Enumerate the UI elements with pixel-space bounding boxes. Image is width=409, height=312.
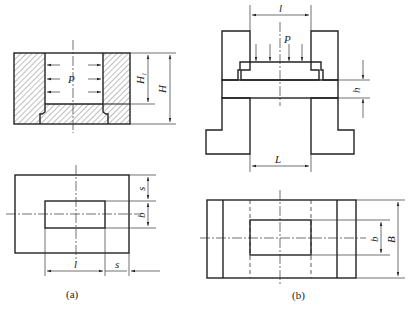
dimension-b-b-label: b xyxy=(368,236,380,242)
dimension-H1-label: H1 xyxy=(134,73,148,85)
dimension-s-bottom-label: s xyxy=(115,258,119,270)
dimension-l-b-label: l xyxy=(279,2,282,14)
dimension-b-a-label: b xyxy=(135,212,147,218)
dimension-l-a-label: l xyxy=(74,258,77,270)
dimension-L-label: L xyxy=(274,153,281,165)
plan-inner-a xyxy=(45,201,105,228)
lower-support-right xyxy=(311,98,354,154)
figure-a-plan-view: s b l s (a) xyxy=(6,165,160,301)
plan-inner-b xyxy=(250,220,311,255)
upper-block-left xyxy=(222,31,250,80)
load-label-b: P xyxy=(283,33,291,45)
figure-b-plan-view: b B (b) xyxy=(200,190,405,302)
figure-b-section-view: P l h L xyxy=(206,2,370,172)
pressure-arrows-left xyxy=(47,65,60,92)
caption-a: (a) xyxy=(66,288,79,301)
diagram-canvas: P H1 H s b l s (a) xyxy=(0,0,409,312)
dimension-s-top-label: s xyxy=(135,187,147,191)
dimension-B-label: B xyxy=(385,236,397,243)
lower-support-left xyxy=(206,98,250,154)
caption-b: (b) xyxy=(292,289,305,302)
pressure-arrows-right xyxy=(88,65,101,92)
dimension-h-label: h xyxy=(350,87,362,93)
upper-block-right xyxy=(311,31,338,80)
die-body-a xyxy=(14,53,130,124)
load-label-a: P xyxy=(67,73,75,85)
figure-a-section-view: P H1 H xyxy=(14,40,176,133)
plan-outer-b xyxy=(207,200,356,278)
pressure-arrows-down xyxy=(256,44,302,61)
dimension-H-label: H xyxy=(156,84,168,94)
